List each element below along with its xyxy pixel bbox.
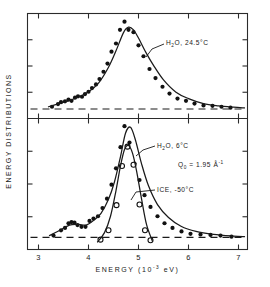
y-axis-title: ENERGY DISTRIBUTIONS [5,73,12,188]
data-point-filled-0-22 [136,43,140,47]
x-axis-title: ENERGY (10-3 eV) [95,265,179,274]
x-tick-label-3: 3 [36,253,40,262]
data-point-filled-0-16 [109,50,113,54]
data-point-filled-1-25 [170,226,174,230]
data-point-filled-0-18 [118,28,122,32]
data-point-filled-1-24 [162,221,166,225]
data-point-filled-1-21 [142,193,146,197]
energy-distribution-figure: 34567H2O, 24.5°CH2O, 6°CQ0 = 1.95 Å-1ICE… [0,0,270,287]
data-point-filled-0-26 [160,85,164,89]
data-point-filled-0-29 [184,99,188,103]
data-point-open-1-6 [137,202,142,207]
data-point-filled-0-19 [122,20,126,24]
leader-line-h2o-24 [146,44,164,57]
x-tick-label-5: 5 [136,253,140,262]
data-point-filled-0-24 [147,67,151,71]
data-point-filled-1-26 [179,229,183,233]
data-point-filled-1-17 [122,124,126,128]
data-point-filled-0-30 [192,101,196,105]
figure-container: 34567H2O, 24.5°CH2O, 6°CQ0 = 1.95 Å-1ICE… [0,0,270,287]
data-point-filled-0-23 [141,54,145,58]
curve-h2o-6c-fitted-curve [50,127,245,237]
annotation-ice: ICE, -50°C [157,186,194,193]
data-point-filled-0-17 [114,41,118,45]
annotation-h2o-6: H2O, 6°C [157,142,189,151]
data-point-filled-1-27 [188,232,192,236]
data-point-filled-1-23 [155,214,159,218]
x-tick-label-4: 4 [86,253,90,262]
data-point-filled-0-27 [167,91,171,95]
plot-frame [28,14,248,250]
data-point-filled-1-22 [148,205,152,209]
annotation-h2o-24: H2O, 24.5°C [166,39,208,48]
data-point-open-1-7 [143,228,148,233]
x-tick-label-6: 6 [186,253,190,262]
data-point-filled-0-25 [153,76,157,80]
data-point-filled-0-28 [175,96,179,100]
annotation-q0: Q0 = 1.95 Å-1 [178,160,224,170]
x-tick-label-7: 7 [236,253,240,262]
data-point-open-1-2 [114,203,119,208]
